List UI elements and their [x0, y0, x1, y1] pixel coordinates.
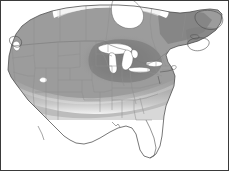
- distribution-map-figure: North America breeding/occurrence range …: [0, 0, 229, 171]
- map-canvas: [0, 0, 229, 171]
- lake-michigan: [109, 53, 117, 74]
